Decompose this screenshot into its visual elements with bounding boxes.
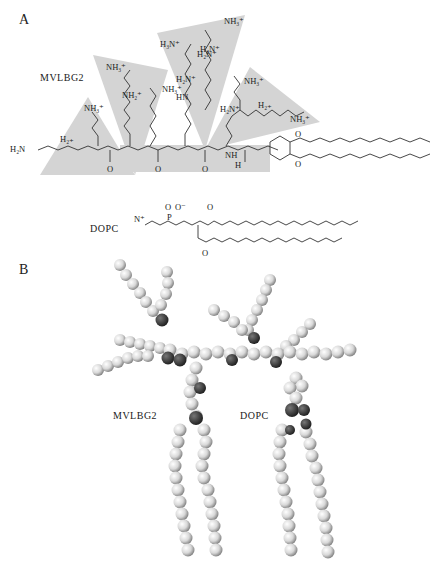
- heteroatoms: [156, 314, 312, 436]
- mvlbg2-model: [92, 259, 357, 559]
- space-filling-model: [0, 0, 440, 583]
